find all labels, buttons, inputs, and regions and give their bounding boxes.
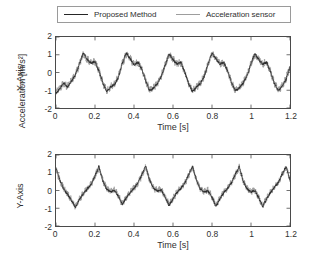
x-tick-label: 0.6	[167, 229, 179, 239]
chart-panel-x-axis: -2-1012 00.20.40.60.811.2 X-Axis Time [s…	[55, 36, 291, 109]
y-tick-label: -2	[38, 104, 52, 114]
y-tick-label: -1	[38, 204, 52, 214]
legend-line-swatch-light	[176, 14, 200, 15]
y-tick-label: -2	[38, 222, 52, 232]
x-tick-label: 1.2	[285, 229, 297, 239]
figure-root: Proposed Method Acceleration sensor Acce…	[0, 0, 309, 261]
y-tick-label: 1	[38, 49, 52, 59]
plot-lines-y-axis	[56, 155, 290, 226]
x-tick-label: 0	[53, 111, 58, 121]
panel-y-axis-label-x-axis: X-Axis	[15, 50, 25, 106]
legend-line-swatch-dark	[64, 14, 88, 15]
plot-lines-x-axis	[56, 37, 290, 108]
y-tick-label: 2	[38, 31, 52, 41]
x-tick-label: 0.4	[128, 111, 140, 121]
x-tick-label: 1.2	[285, 111, 297, 121]
x-tick-label: 0	[53, 229, 58, 239]
x-tick-label: 1	[249, 229, 254, 239]
x-tick-label: 0.2	[88, 111, 100, 121]
panel-y-axis-label-y-axis: Y-Axis	[15, 168, 25, 224]
y-tick-label: 0	[38, 68, 52, 78]
x-tick-label: 0.4	[128, 229, 140, 239]
y-tick-label: 1	[38, 167, 52, 177]
chart-panel-y-axis: -2-1012 00.20.40.60.811.2 Y-Axis Time [s…	[55, 154, 291, 227]
legend-label-acceleration-sensor: Acceleration sensor	[206, 10, 275, 19]
y-tick-label: -1	[38, 86, 52, 96]
x-tick-label: 0.8	[206, 111, 218, 121]
x-tick-label: 0.2	[88, 229, 100, 239]
y-tick-label: 2	[38, 149, 52, 159]
x-tick-label: 0.6	[167, 111, 179, 121]
legend-entry-proposed-method: Proposed Method	[64, 7, 156, 22]
plot-area-x-axis	[55, 36, 291, 109]
y-tick-label: 0	[38, 186, 52, 196]
chart-legend: Proposed Method Acceleration sensor	[57, 6, 291, 23]
x-tick-label: 1	[249, 111, 254, 121]
legend-entry-acceleration-sensor: Acceleration sensor	[176, 7, 275, 22]
panel-x-axis-label-bottom: Time [s]	[55, 240, 291, 250]
panel-x-axis-label-top: Time [s]	[55, 122, 291, 132]
x-tick-label: 0.8	[206, 229, 218, 239]
legend-label-proposed-method: Proposed Method	[94, 10, 156, 19]
plot-area-y-axis	[55, 154, 291, 227]
